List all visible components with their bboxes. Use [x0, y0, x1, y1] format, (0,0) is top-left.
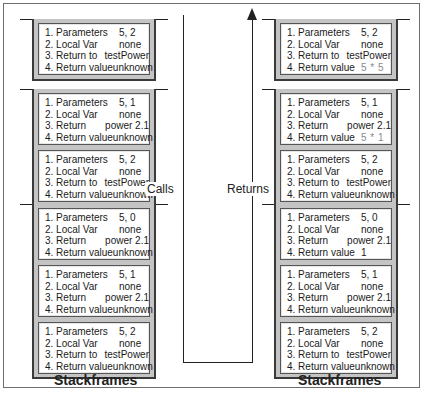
row-key: 3. Return to	[45, 349, 105, 361]
row-value: none	[361, 39, 383, 51]
bracket-lip-right	[398, 89, 410, 90]
bracket-lip-left	[262, 19, 274, 20]
row-key: 3. Return to	[45, 177, 105, 189]
row-value: 5, 1	[361, 269, 378, 281]
up-arrow-icon	[247, 8, 257, 20]
row-value: 5, 0	[361, 212, 378, 224]
row-key: 4. Return value	[287, 189, 355, 201]
row-value: 5, 1	[119, 269, 136, 281]
row-value: power 2.1	[347, 120, 391, 132]
left-stack-3: 1. Parameters5, 0 2. Local Varnone 3. Re…	[32, 204, 156, 379]
row-value: testPower	[105, 177, 149, 189]
row-key: 1. Parameters	[287, 212, 361, 224]
row-key: 1. Parameters	[45, 27, 119, 39]
stack-frame: 1. Parameters5, 1 2. Local Varnone 3. Re…	[38, 265, 150, 317]
left-stack-1: 1. Parameters5, 2 2. Local Varnone 3. Re…	[32, 19, 156, 81]
row-key: 2. Local Var	[287, 224, 361, 236]
row-value: unknown	[355, 361, 395, 373]
returns-label: Returns	[226, 182, 270, 196]
row-value: testPower	[105, 50, 149, 62]
row-key: 1. Parameters	[287, 154, 361, 166]
bracket-lip-left	[20, 19, 32, 20]
row-value: none	[119, 224, 141, 236]
row-key: 2. Local Var	[45, 39, 119, 51]
row-key: 1. Parameters	[287, 269, 361, 281]
right-stack-3: 1. Parameters5, 0 2. Local Varnone 3. Re…	[274, 204, 398, 379]
row-value: power 2.1	[105, 235, 149, 247]
row-key: 4. Return value	[45, 62, 113, 74]
bracket-lip-left	[20, 204, 32, 205]
row-key: 2. Local Var	[45, 338, 119, 350]
row-key: 4. Return value	[287, 304, 355, 316]
computed-return-value: 5 * 5	[361, 62, 384, 74]
row-key: 4. Return value	[287, 361, 355, 373]
row-value: none	[361, 166, 383, 178]
row-key: 1. Parameters	[287, 27, 361, 39]
stack-frame: 1. Parameters5, 0 2. Local Varnone 3. Re…	[280, 208, 392, 260]
row-value: power 2.1	[347, 292, 391, 304]
row-value: none	[119, 39, 141, 51]
row-key: 3. Return to	[287, 50, 347, 62]
row-value: unknown	[113, 304, 153, 316]
row-key: 1. Parameters	[45, 212, 119, 224]
row-key: 4. Return value	[45, 247, 113, 259]
row-key: 2. Local Var	[45, 109, 119, 121]
bracket-lip-left	[262, 89, 274, 90]
row-key: 1. Parameters	[45, 154, 119, 166]
row-value: 5, 1	[119, 97, 136, 109]
row-key: 2. Local Var	[287, 39, 361, 51]
row-value: 5, 2	[361, 27, 378, 39]
stack-frame: 1. Parameters5, 2 2. Local Varnone 3. Re…	[280, 322, 392, 374]
calls-label: Calls	[146, 182, 175, 196]
right-stack-2: 1. Parameters5, 1 2. Local Varnone 3. Re…	[274, 89, 398, 207]
row-key: 4. Return value	[45, 132, 113, 144]
row-value: none	[119, 281, 141, 293]
row-key: 1. Parameters	[45, 97, 119, 109]
right-stack-1: 1. Parameters5, 2 2. Local Varnone 3. Re…	[274, 19, 398, 81]
row-key: 3. Return	[45, 235, 105, 247]
bracket-lip-left	[20, 89, 32, 90]
bracket-lip-right	[156, 89, 168, 90]
row-key: 3. Return	[287, 292, 347, 304]
row-value: testPower	[347, 349, 391, 361]
row-key: 1. Parameters	[287, 97, 361, 109]
row-key: 1. Parameters	[45, 326, 119, 338]
row-value: 5, 2	[119, 27, 136, 39]
row-key: 4. Return value	[45, 304, 113, 316]
computed-return-value: 5 * 1	[361, 132, 384, 144]
row-key: 3. Return to	[287, 177, 347, 189]
row-value: 5, 2	[119, 154, 136, 166]
row-key: 2. Local Var	[287, 338, 361, 350]
row-value: power 2.1	[105, 120, 149, 132]
row-value: testPower	[347, 177, 391, 189]
row-value: none	[361, 224, 383, 236]
row-value: unknown	[113, 62, 153, 74]
row-value: power 2.1	[347, 235, 391, 247]
stack-frame: 1. Parameters5, 2 2. Local Varnone 3. Re…	[280, 150, 392, 202]
row-value: none	[361, 109, 383, 121]
stack-frame: 1. Parameters5, 1 2. Local Varnone 3. Re…	[38, 93, 150, 145]
row-value: testPower	[105, 349, 149, 361]
row-value: none	[361, 338, 383, 350]
stack-frame: 1. Parameters5, 1 2. Local Varnone 3. Re…	[280, 93, 392, 145]
stack-frame: 1. Parameters5, 2 2. Local Varnone 3. Re…	[38, 23, 150, 75]
row-key: 3. Return	[287, 235, 347, 247]
row-key: 4. Return value	[287, 247, 361, 259]
left-stackframes-title: Stackframes	[54, 372, 137, 388]
bracket-lip-right	[156, 19, 168, 20]
row-key: 4. Return value	[45, 361, 113, 373]
row-value: 5, 2	[361, 326, 378, 338]
row-key: 3. Return	[45, 120, 105, 132]
stack-frame: 1. Parameters5, 1 2. Local Varnone 3. Re…	[280, 265, 392, 317]
row-key: 3. Return	[287, 120, 347, 132]
row-key: 3. Return to	[287, 349, 347, 361]
row-key: 1. Parameters	[287, 326, 361, 338]
row-value: 5, 2	[119, 326, 136, 338]
right-stackframes-title: Stackframes	[298, 372, 381, 388]
row-value: 5, 2	[361, 154, 378, 166]
row-key: 2. Local Var	[287, 109, 361, 121]
bracket-lip-right	[398, 19, 410, 20]
row-value: none	[119, 109, 141, 121]
bracket-lip-right	[156, 204, 168, 205]
stack-frame: 1. Parameters5, 2 2. Local Varnone 3. Re…	[280, 23, 392, 75]
